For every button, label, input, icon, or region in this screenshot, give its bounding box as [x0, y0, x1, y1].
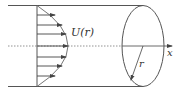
velocity-label: U(r)	[71, 26, 94, 39]
axis-label: x	[167, 47, 173, 58]
pipe-flow-diagram: U(r) x r	[0, 0, 180, 92]
velocity-arrows	[37, 15, 68, 76]
radius-label: r	[139, 58, 145, 69]
